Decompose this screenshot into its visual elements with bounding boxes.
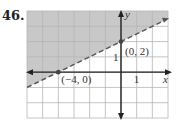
point-label: (0, 2) [125, 45, 149, 58]
x-tick-label: 1 [134, 73, 140, 85]
graph: (−4, 0)(0, 2)11xy [0, 0, 180, 128]
data-point [56, 70, 61, 75]
point-label: (−4, 0) [61, 73, 91, 86]
data-point [119, 39, 124, 44]
y-arrow-down-icon [118, 113, 124, 120]
y-axis-label: y [124, 8, 130, 20]
x-axis-label: x [162, 73, 168, 85]
y-tick-label: 1 [113, 51, 119, 63]
